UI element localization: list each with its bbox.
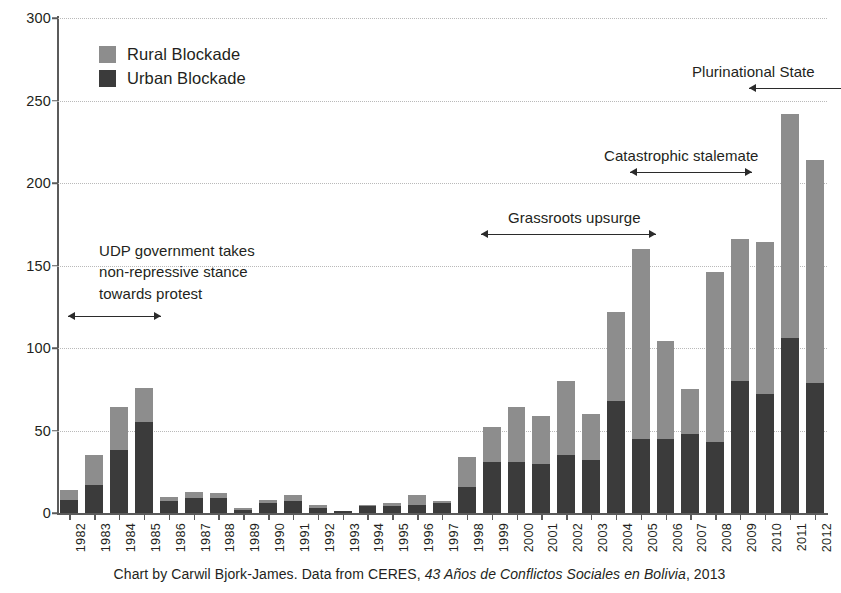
bar-segment-rural bbox=[408, 495, 426, 505]
bar-segment-rural bbox=[731, 239, 749, 381]
x-axis-tick-label-2003: 2003 bbox=[596, 523, 610, 552]
bar-segment-rural bbox=[632, 249, 650, 439]
bar-1990 bbox=[259, 500, 277, 513]
caption-source-title: 43 Años de Conflictos Sociales en Bolivi… bbox=[425, 566, 686, 582]
bracket-line bbox=[481, 234, 656, 235]
bar-2007 bbox=[681, 389, 699, 513]
annotation-grassroots-bracket bbox=[481, 230, 656, 239]
y-axis-tick-label: 150 bbox=[5, 258, 51, 274]
x-axis-tick-mark bbox=[268, 514, 269, 520]
legend-swatch-urban-icon bbox=[99, 70, 116, 87]
bar-2010 bbox=[756, 242, 774, 513]
x-axis-tick-mark bbox=[442, 514, 443, 520]
x-axis-tick-label-2004: 2004 bbox=[621, 523, 635, 552]
annotation-plurinational-bracket bbox=[749, 84, 841, 93]
x-axis-tick-label-2011: 2011 bbox=[795, 523, 809, 551]
bar-segment-urban bbox=[259, 503, 277, 513]
bar-segment-urban bbox=[681, 434, 699, 513]
bar-segment-rural bbox=[110, 407, 128, 450]
x-axis-tick-mark bbox=[666, 514, 667, 520]
bar-1992 bbox=[309, 505, 327, 513]
x-axis-tick-label-1985: 1985 bbox=[149, 523, 163, 552]
x-axis-tick-mark bbox=[69, 514, 70, 520]
x-axis-tick-label-1999: 1999 bbox=[497, 523, 511, 552]
annotation-grassroots-label: Grassroots upsurge bbox=[508, 207, 641, 228]
x-axis-tick-mark bbox=[119, 514, 120, 520]
bracket-line bbox=[68, 316, 161, 317]
bar-2011 bbox=[781, 114, 799, 513]
annotation-udp-line-2: non-repressive stance bbox=[99, 261, 255, 282]
bar-segment-urban bbox=[756, 394, 774, 513]
x-axis-tick-label-1996: 1996 bbox=[422, 523, 436, 552]
legend-item-rural: Rural Blockade bbox=[99, 42, 246, 66]
x-axis-tick-label-2008: 2008 bbox=[720, 523, 734, 552]
x-axis-tick-label-2010: 2010 bbox=[770, 523, 784, 552]
bar-2004 bbox=[607, 312, 625, 513]
bar-segment-urban bbox=[334, 511, 352, 513]
bracket-line bbox=[630, 172, 752, 173]
annotation-udp-line-3: towards protest bbox=[99, 283, 255, 304]
x-axis-tick-label-1989: 1989 bbox=[248, 523, 262, 552]
legend-label-urban: Urban Blockade bbox=[127, 69, 246, 88]
bar-2009 bbox=[731, 239, 749, 513]
bar-segment-rural bbox=[60, 490, 78, 500]
x-axis-tick-mark bbox=[467, 514, 468, 520]
annotation-catastrophic-label: Catastrophic stalemate bbox=[604, 145, 759, 166]
bar-segment-urban bbox=[557, 455, 575, 513]
bar-segment-urban bbox=[60, 500, 78, 513]
bar-segment-urban bbox=[85, 485, 103, 513]
x-axis-tick-label-2002: 2002 bbox=[571, 523, 585, 552]
bar-segment-urban bbox=[408, 505, 426, 513]
x-axis-tick-mark bbox=[243, 514, 244, 520]
x-axis-tick-mark bbox=[690, 514, 691, 520]
legend: Rural Blockade Urban Blockade bbox=[99, 42, 246, 90]
bar-segment-rural bbox=[483, 427, 501, 462]
bar-1989 bbox=[234, 508, 252, 513]
bar-segment-urban bbox=[433, 503, 451, 513]
bar-2012 bbox=[806, 160, 824, 513]
x-axis-tick-mark bbox=[94, 514, 95, 520]
bar-1999 bbox=[483, 427, 501, 513]
x-axis-tick-label-1986: 1986 bbox=[174, 523, 188, 552]
bar-segment-rural bbox=[458, 457, 476, 487]
bar-2002 bbox=[557, 381, 575, 513]
bar-segment-urban bbox=[185, 498, 203, 513]
bar-1997 bbox=[433, 501, 451, 513]
x-axis-tick-mark bbox=[790, 514, 791, 520]
caption-suffix: , 2013 bbox=[686, 566, 726, 582]
bar-segment-urban bbox=[110, 450, 128, 513]
x-axis-tick-label-1995: 1995 bbox=[397, 523, 411, 552]
bar-segment-urban bbox=[532, 464, 550, 514]
x-axis-tick-mark bbox=[591, 514, 592, 520]
bar-2005 bbox=[632, 249, 650, 513]
bar-segment-urban bbox=[210, 498, 228, 513]
chart-caption: Chart by Carwil Bjork-James. Data from C… bbox=[0, 566, 839, 582]
legend-swatch-rural-icon bbox=[99, 46, 116, 63]
bar-segment-rural bbox=[756, 242, 774, 394]
bar-segment-rural bbox=[135, 388, 153, 423]
bar-segment-urban bbox=[483, 462, 501, 513]
x-axis-tick-label-1984: 1984 bbox=[124, 523, 138, 552]
bar-2001 bbox=[532, 416, 550, 513]
bar-1991 bbox=[284, 495, 302, 513]
annotation-plurinational-label: Plurinational State bbox=[692, 61, 815, 82]
bar-segment-urban bbox=[160, 501, 178, 513]
y-axis-tick-label: 50 bbox=[5, 423, 51, 439]
x-axis-tick-mark bbox=[517, 514, 518, 520]
bar-1988 bbox=[210, 493, 228, 513]
bar-1985 bbox=[135, 388, 153, 513]
bracket-cap-right-icon bbox=[154, 312, 161, 320]
annotation-udp-government: UDP government takes non-repressive stan… bbox=[99, 240, 255, 304]
bar-segment-rural bbox=[557, 381, 575, 455]
x-axis-tick-label-1987: 1987 bbox=[199, 523, 213, 552]
bracket-cap-left-icon bbox=[481, 230, 488, 238]
x-axis-tick-label-2000: 2000 bbox=[522, 523, 536, 552]
bar-1995 bbox=[383, 503, 401, 513]
bar-2008 bbox=[706, 272, 724, 513]
bar-segment-rural bbox=[681, 389, 699, 434]
bracket-cap-left-icon bbox=[630, 168, 637, 176]
bracket-cap-right-icon bbox=[649, 230, 656, 238]
x-axis-tick-label-1994: 1994 bbox=[372, 523, 386, 552]
y-axis-tick-label: 100 bbox=[5, 340, 51, 356]
